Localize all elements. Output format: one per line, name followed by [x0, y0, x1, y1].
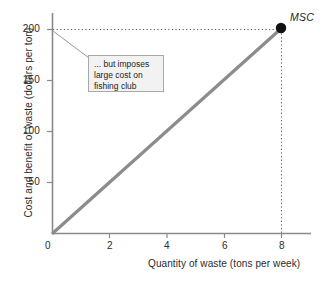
chart-figure: 200 150 100 50 0 2 4 6 8 Cost and benefi… [0, 0, 324, 281]
chart-plot-area [0, 0, 324, 281]
x-tick-label-8: 8 [272, 240, 292, 251]
callout-leader-line [53, 31, 89, 58]
msc-endpoint-marker [276, 23, 286, 33]
msc-curve-label: MSC [290, 11, 314, 23]
x-tick-label-6: 6 [215, 240, 235, 251]
y-axis-ticks [47, 30, 52, 183]
x-axis-title: Quantity of waste (tons per week) [148, 258, 300, 269]
y-axis-title: Cost and benefit of waste (dollars per t… [23, 38, 34, 218]
cost-callout-box: ... but imposes large cost on fishing cl… [88, 55, 164, 92]
cost-callout-text: ... but imposes large cost on fishing cl… [94, 59, 159, 92]
x-tick-label-2: 2 [100, 240, 120, 251]
x-tick-label-4: 4 [157, 240, 177, 251]
x-tick-label-0: 0 [38, 240, 58, 251]
